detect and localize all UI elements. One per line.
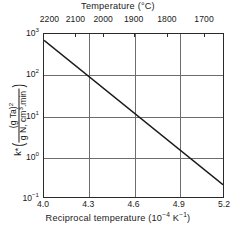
y-axis-open-paren: ( — [11, 143, 26, 147]
arrhenius-chart-figure: Temperature (°C) 22002100200019001800170… — [0, 0, 236, 232]
y-axis-units-fraction: (g Ta)2 g N, cm3.min — [9, 89, 28, 142]
y-tick-exponent: 2 — [36, 67, 39, 74]
y-axis-symbol: k* — [13, 148, 23, 156]
y-tick-exponent: 3 — [36, 26, 39, 33]
bottom-title-main: Reciprocal temperature (10 — [46, 213, 163, 223]
top-axis-tick-label-1900: 1900 — [124, 14, 144, 24]
data-line-series — [44, 34, 223, 197]
y-tick-mantissa: 10 — [26, 28, 36, 38]
bottom-title-exp-2: −1 — [179, 211, 187, 218]
top-axis-tick-label-1700: 1700 — [194, 14, 214, 24]
top-axis-title: Temperature (°C) — [0, 1, 236, 11]
bottom-axis-tick-label-4.3: 4.3 — [82, 199, 94, 209]
top-axis-tick-label-2200: 2200 — [40, 14, 60, 24]
bottom-title-exp-1: −4 — [162, 211, 170, 218]
top-axis-tick-label-2000: 2000 — [93, 14, 113, 24]
y-axis-denominator-exponent: 3 — [17, 107, 24, 110]
y-tick-exponent: 1 — [36, 109, 39, 116]
y-axis-units-denominator: g N, cm3.min — [20, 89, 29, 142]
bottom-axis-tick-label-4.6: 4.6 — [127, 199, 139, 209]
bottom-axis-tick-label-4.0: 4.0 — [37, 199, 49, 209]
y-axis-tick-label-1e3: 103 — [26, 28, 39, 38]
bottom-axis-tick-label-5.2: 5.2 — [218, 199, 230, 209]
y-axis-title: k*( (g Ta)2 g N, cm3.min ) — [9, 45, 28, 195]
series-k-star-polyline — [44, 40, 223, 184]
top-axis-tick-label-1800: 1800 — [157, 14, 177, 24]
top-axis-tick-label-2100: 2100 — [66, 14, 86, 24]
plot-area — [43, 33, 224, 198]
bottom-title-end: ) — [187, 213, 190, 223]
bottom-title-mid: K — [170, 213, 179, 223]
y-tick-exponent: −1 — [32, 191, 39, 198]
y-axis-close-paren: ) — [11, 84, 26, 88]
bottom-axis-tick-label-4.9: 4.9 — [173, 199, 185, 209]
y-tick-exponent: 0 — [36, 150, 39, 157]
bottom-axis-title: Reciprocal temperature (10−4 K−1) — [0, 213, 236, 223]
y-axis-numerator-exponent: 2 — [7, 103, 14, 106]
